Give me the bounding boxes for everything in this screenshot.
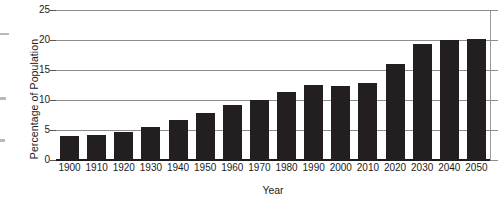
right-tick-mark [490, 100, 498, 101]
bar [304, 85, 323, 160]
x-tick-label: 1960 [217, 162, 247, 174]
y-tick-mark [50, 10, 56, 11]
y-tick-label: 5 [28, 125, 50, 135]
x-tick-label: 2050 [461, 162, 491, 174]
x-tick-label: 1970 [244, 162, 274, 174]
scan-artifact [0, 139, 5, 142]
bar [467, 39, 486, 160]
bar [196, 113, 215, 160]
x-tick-label: 1920 [109, 162, 139, 174]
bar [250, 100, 269, 160]
right-tick-mark [490, 130, 498, 131]
bar [60, 136, 79, 160]
x-tick-label: 2000 [326, 162, 356, 174]
bar [331, 86, 350, 160]
x-tick-label: 1900 [55, 162, 85, 174]
y-tick-mark [50, 100, 56, 101]
y-tick-mark [50, 40, 56, 41]
x-tick-label: 1940 [163, 162, 193, 174]
y-tick-label: 20 [28, 35, 50, 45]
gridline [56, 40, 490, 41]
x-tick-label: 1950 [190, 162, 220, 174]
right-tick-mark [490, 70, 498, 71]
x-tick-label: 1980 [272, 162, 302, 174]
x-tick-label: 2020 [380, 162, 410, 174]
bar [386, 64, 405, 160]
y-tick-label: 10 [28, 95, 50, 105]
right-tick-mark [490, 40, 498, 41]
right-tick-mark [490, 160, 498, 161]
y-tick-label: 15 [28, 65, 50, 75]
bar [223, 105, 242, 160]
y-tick-mark [50, 160, 56, 161]
right-axis-line [490, 10, 491, 160]
x-axis-tick-labels: 1900191019201930194019501960197019801990… [56, 162, 490, 178]
x-tick-label: 2030 [407, 162, 437, 174]
x-tick-label: 1990 [299, 162, 329, 174]
plot-area [56, 10, 490, 160]
y-tick-label: 0 [28, 155, 50, 165]
x-tick-label: 1930 [136, 162, 166, 174]
bar [87, 135, 106, 160]
bar [141, 127, 160, 160]
bar [358, 83, 377, 160]
y-tick-mark [50, 70, 56, 71]
x-axis-title: Year [56, 184, 490, 196]
y-tick-label: 25 [28, 5, 50, 15]
x-tick-label: 2040 [434, 162, 464, 174]
x-tick-label: 1910 [82, 162, 112, 174]
bar [440, 40, 459, 160]
gridline [56, 10, 490, 11]
bar [277, 92, 296, 160]
scan-artifact [0, 97, 6, 100]
bar [413, 44, 432, 160]
y-axis-tick-labels: 0510152025 [28, 0, 50, 213]
bar-chart: Percentage of Population 0510152025 1900… [0, 0, 504, 213]
bar [169, 120, 188, 160]
right-tick-mark [490, 10, 498, 11]
x-tick-label: 2010 [353, 162, 383, 174]
scan-artifact [0, 33, 9, 35]
y-tick-mark [50, 130, 56, 131]
bar [114, 132, 133, 160]
